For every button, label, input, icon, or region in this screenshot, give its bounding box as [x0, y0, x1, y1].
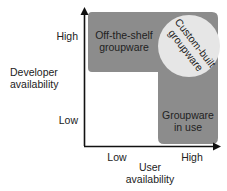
x-axis-arrow-icon [213, 143, 221, 151]
groupware-in-use-label: Groupware in use [158, 109, 218, 133]
y-axis-arrow-icon [81, 7, 89, 15]
y-tick-low: Low [44, 114, 78, 126]
x-title-line2: availability [115, 173, 185, 185]
y-title-line2: availability [10, 78, 58, 90]
off-the-shelf-line1: Off-the-shelf [92, 29, 156, 41]
off-the-shelf-line2: groupware [92, 41, 156, 53]
x-title-line1: User [115, 161, 185, 173]
in-use-line2: in use [158, 121, 218, 133]
x-axis-title: User availability [115, 161, 185, 185]
y-title-line1: Developer [10, 66, 58, 78]
y-axis-title: Developer availability [10, 66, 58, 90]
in-use-line1: Groupware [158, 109, 218, 121]
y-tick-high: High [44, 30, 78, 42]
off-the-shelf-label: Off-the-shelf groupware [92, 29, 156, 53]
